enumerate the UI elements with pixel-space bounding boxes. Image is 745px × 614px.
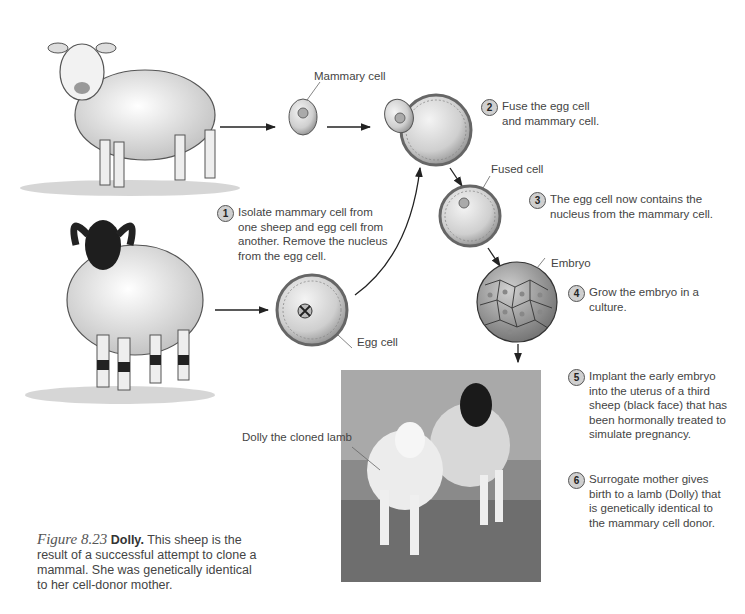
egg-cell-label: Egg cell — [357, 335, 398, 349]
white-sheep-illustration — [20, 43, 240, 196]
step-number-badge: 3 — [529, 192, 546, 209]
black-faced-sheep-illustration — [25, 220, 215, 404]
step-text: The egg cell now contains the nucleus fr… — [550, 192, 735, 221]
step-text: Grow the embryo in a culture. — [589, 285, 724, 314]
fused-cell-label: Fused cell — [491, 162, 543, 176]
mammary-cell-label: Mammary cell — [314, 69, 386, 83]
step-number-badge: 5 — [568, 369, 585, 386]
step-text: Isolate mammary cell from one sheep and … — [238, 205, 388, 263]
step-number-badge: 6 — [568, 472, 585, 489]
figure-title: Dolly. — [111, 533, 144, 547]
fused-cell-illustration — [440, 176, 500, 246]
step-text: Surrogate mother gives birth to a lamb (… — [589, 472, 729, 530]
step-text: Implant the early embryo into the uterus… — [589, 369, 729, 442]
figure-caption: Figure 8.23 Dolly. This sheep is the res… — [37, 532, 262, 593]
egg-cell-illustration — [277, 275, 352, 348]
fusion-cell-illustration — [380, 95, 471, 165]
step-number-badge: 1 — [217, 205, 234, 222]
embryo-label: Embryo — [551, 256, 591, 270]
mammary-cell-illustration — [289, 82, 320, 135]
figure-number: Figure 8.23 — [37, 531, 107, 547]
step-text: Fuse the egg cell and mammary cell. — [502, 99, 607, 128]
dolly-photo-label: Dolly the cloned lamb — [242, 430, 352, 444]
step-number-badge: 2 — [481, 99, 498, 116]
embryo-illustration — [477, 258, 557, 342]
dolly-photo — [341, 370, 541, 582]
step-number-badge: 4 — [568, 285, 585, 302]
